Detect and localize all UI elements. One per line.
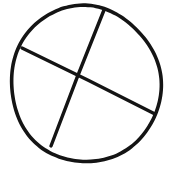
figure-canvas: [0, 0, 169, 169]
line-drawing-svg: [0, 0, 169, 169]
canvas-background: [0, 0, 169, 169]
